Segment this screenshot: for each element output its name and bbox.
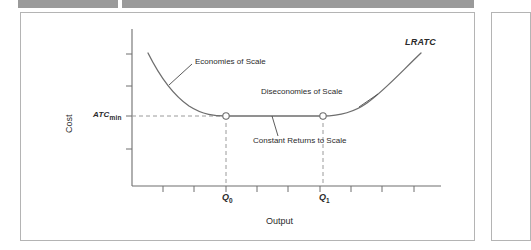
atcmin-subscript: min	[109, 114, 121, 121]
diseconomies-leader-line	[359, 94, 378, 107]
figure-panel: Cost Output ATCmin Q0 Q1 Economies of Sc…	[20, 12, 475, 241]
y-axis-label: Cost	[65, 114, 74, 133]
y-axis-ticks	[126, 54, 132, 149]
lratc-chart: Cost Output ATCmin Q0 Q1 Economies of Sc…	[21, 13, 476, 242]
q1-text: Q	[319, 192, 326, 202]
x-axis-label: Output	[266, 217, 293, 226]
q0-point-marker	[223, 113, 229, 119]
lratc-curve	[148, 53, 421, 116]
x-axis-ticks	[163, 186, 414, 192]
q1-tick-label: Q1	[319, 193, 330, 204]
atcmin-tick-label: ATCmin	[93, 111, 122, 121]
atcmin-text: ATC	[93, 110, 109, 119]
q1-subscript: 1	[326, 197, 330, 204]
top-banner-bar-right	[122, 0, 474, 8]
q0-tick-label: Q0	[222, 193, 233, 204]
annotation-diseconomies-of-scale: Diseconomies of Scale	[261, 88, 342, 96]
annotation-economies-of-scale: Economies of Scale	[195, 58, 266, 66]
q0-text: Q	[222, 192, 229, 202]
adjacent-panel	[491, 12, 531, 241]
q1-point-marker	[320, 113, 326, 119]
lratc-curve-label: LRATC	[405, 38, 436, 47]
chart-svg	[21, 13, 476, 242]
annotation-constant-returns-to-scale: Constant Returns to Scale	[253, 137, 346, 145]
top-banner-bar-left	[18, 0, 118, 8]
constant-returns-leader-line	[272, 116, 278, 136]
q0-subscript: 0	[229, 197, 233, 204]
economies-leader-line	[169, 64, 192, 85]
